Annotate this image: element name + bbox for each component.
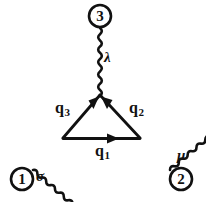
boson-label-mu: μ [177, 148, 185, 163]
momentum-label-q3-subscript: 3 [64, 106, 70, 118]
arrowhead-q1 [107, 134, 119, 144]
momentum-label-q3-base: q [55, 99, 64, 116]
momentum-label-q2: q2 [129, 100, 144, 118]
momentum-label-q2-base: q [129, 99, 138, 116]
photon-line-lambda [98, 28, 102, 96]
momentum-label-q3: q3 [55, 100, 70, 118]
momentum-label-q1-base: q [95, 142, 104, 159]
momentum-label-q1: q1 [95, 143, 110, 161]
external-node-1-label: 1 [12, 172, 32, 187]
momentum-label-q2-subscript: 2 [138, 106, 144, 118]
external-node-2-label: 2 [171, 172, 191, 187]
boson-label-lambda: λ [104, 50, 111, 65]
external-node-3-label: 3 [90, 9, 110, 24]
photon-line-mu [169, 135, 206, 171]
boson-label-sigma: σ [36, 169, 44, 184]
feynman-diagram-canvas: 3 1 2 λ σ μ q3 q2 q1 [0, 0, 206, 202]
momentum-label-q1-subscript: 1 [104, 149, 110, 161]
